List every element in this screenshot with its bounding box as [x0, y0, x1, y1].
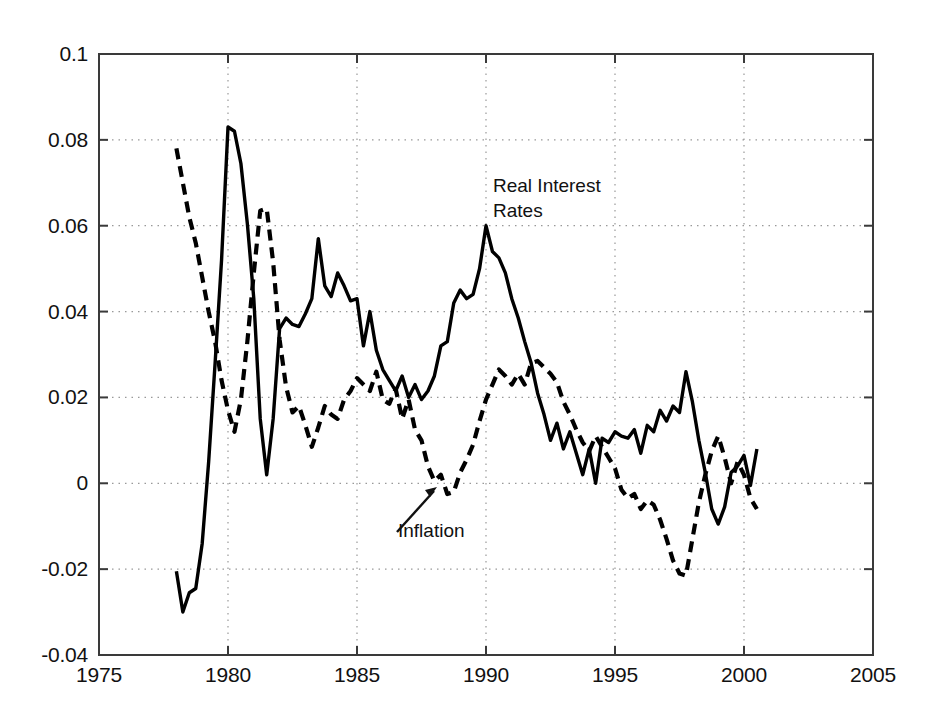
x-tick-label: 1980 [205, 663, 251, 687]
y-tick-label: 0.08 [0, 128, 88, 152]
chart-canvas [0, 0, 935, 728]
x-tick-label: 1985 [334, 663, 380, 687]
x-tick-label: 1975 [76, 663, 122, 687]
y-tick-label: 0 [0, 471, 88, 495]
y-tick-label: 0.04 [0, 300, 88, 324]
x-tick-label: 2005 [850, 663, 896, 687]
y-tick-label: 0.02 [0, 385, 88, 409]
series-line-real-interest-rates [176, 127, 757, 612]
x-tick-label: 1995 [592, 663, 638, 687]
x-tick-label: 2000 [721, 663, 767, 687]
y-tick-label: -0.04 [0, 643, 88, 667]
real-interest-rates-annotation: Real Interest Rates [493, 173, 601, 223]
y-tick-label: -0.02 [0, 557, 88, 581]
chart-figure: -0.04-0.0200.020.040.060.080.1 197519801… [0, 0, 935, 728]
series-line-inflation [176, 148, 757, 575]
x-tick-label: 1990 [463, 663, 509, 687]
data-series-layer [176, 127, 757, 612]
y-tick-label: 0.1 [0, 42, 88, 66]
y-tick-label: 0.06 [0, 214, 88, 238]
inflation-annotation: Inflation [398, 518, 465, 543]
